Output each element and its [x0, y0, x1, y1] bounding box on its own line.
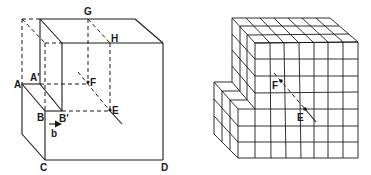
- label-d: D: [161, 162, 168, 173]
- top-face-grid: [232, 18, 358, 43]
- label-e-left: E: [112, 105, 119, 116]
- label-h: H: [111, 33, 118, 44]
- hidden-lines: [22, 19, 110, 111]
- dislocation-line-right: [274, 73, 316, 122]
- figure-canvas: A A' B B' b C D E F G H: [0, 0, 371, 175]
- label-f-right: F: [272, 80, 278, 91]
- label-a: A: [14, 79, 21, 90]
- label-b-prime: B': [59, 113, 69, 124]
- point-e-marker-right: [303, 107, 307, 111]
- label-e-right: E: [297, 112, 304, 123]
- front-face-grid: [238, 42, 358, 158]
- label-f-left: F: [90, 77, 96, 88]
- label-a-prime: A': [30, 72, 40, 83]
- right-diagram: F E: [214, 18, 358, 158]
- label-c: C: [40, 162, 47, 173]
- upper-side-face-grid: [232, 18, 255, 109]
- label-b: B: [37, 112, 44, 123]
- label-g: G: [84, 6, 92, 17]
- label-b-vector: b: [51, 128, 57, 139]
- main-block: [40, 19, 163, 160]
- point-f-marker-right: [279, 79, 283, 83]
- left-diagram: A A' B B' b C D E F G H: [14, 6, 168, 173]
